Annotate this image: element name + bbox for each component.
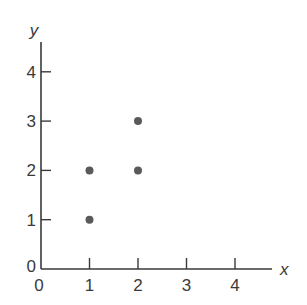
y-origin-label: 0 [27, 257, 36, 276]
axes [41, 42, 272, 269]
x-tick-label: 2 [133, 276, 142, 295]
x-axis-label: x [279, 260, 289, 279]
data-point [86, 166, 94, 174]
y-tick-label: 4 [27, 63, 36, 82]
axis-labels: 1234123400xy [27, 21, 289, 295]
y-tick-label: 2 [27, 161, 36, 180]
x-tick-label: 3 [182, 276, 191, 295]
x-tick-label: 1 [85, 276, 94, 295]
data-points [86, 117, 143, 224]
data-point [134, 117, 142, 125]
y-tick-label: 1 [27, 211, 36, 230]
y-tick-label: 3 [27, 112, 36, 131]
x-tick-label: 4 [230, 276, 239, 295]
x-origin-label: 0 [34, 276, 43, 295]
data-point [86, 216, 94, 224]
data-point [134, 166, 142, 174]
y-axis-label: y [29, 21, 40, 40]
scatter-plot: 1234123400xy [0, 0, 307, 305]
